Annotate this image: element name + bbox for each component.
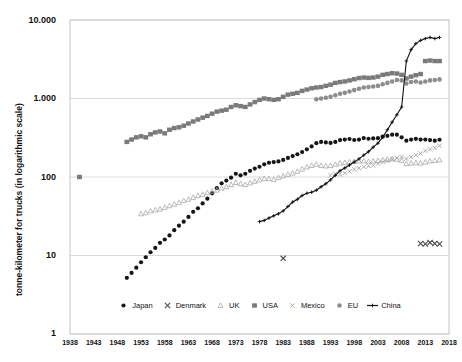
legend-item-china[interactable]: China — [367, 301, 401, 310]
x-tick-label-16: 2018 — [432, 339, 462, 346]
legend-marker-eu-icon — [334, 301, 345, 310]
legend-item-usa[interactable]: USA — [249, 301, 278, 310]
legend-marker-china-icon — [367, 301, 378, 310]
legend-label-eu: EU — [348, 301, 358, 310]
legend-label-mexico: Mexico — [301, 301, 325, 310]
legend-item-japan[interactable]: Japan — [118, 301, 152, 310]
legend-label-uk: UK — [229, 301, 239, 310]
legend-marker-usa-icon — [249, 301, 260, 310]
legend-item-denmark[interactable]: Denmark — [162, 301, 206, 310]
legend-label-japan: Japan — [132, 301, 152, 310]
legend-item-mexico[interactable]: Mexico — [287, 301, 325, 310]
legend-marker-denmark-icon — [162, 301, 173, 310]
legend-marker-japan-icon — [118, 301, 129, 310]
legend-label-denmark: Denmark — [176, 301, 206, 310]
legend-marker-mexico-icon — [287, 301, 298, 310]
chart-legend: JapanDenmarkUKUSAMexicoEUChina — [70, 297, 449, 313]
legend-item-eu[interactable]: EU — [334, 301, 358, 310]
legend-item-uk[interactable]: UK — [215, 301, 239, 310]
legend-label-usa: USA — [263, 301, 278, 310]
legend-label-china: China — [381, 301, 401, 310]
legend-marker-uk-icon — [215, 301, 226, 310]
